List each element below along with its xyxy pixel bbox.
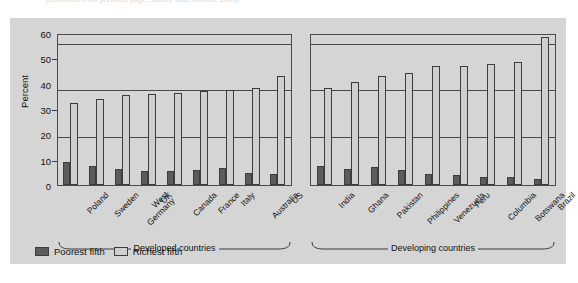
- bar-richest-fifth: [252, 88, 260, 185]
- chart-figure: Percent 60 50 40 30 20 10 0 PolandSweden…: [10, 18, 566, 264]
- bar-group: [450, 35, 470, 185]
- bar-group: [315, 35, 335, 185]
- bar-poorest-fifth: [115, 169, 122, 185]
- bar-group: [369, 35, 389, 185]
- bar-richest-fifth: [70, 103, 78, 185]
- bar-richest-fifth: [148, 94, 156, 185]
- bar-poorest-fifth: [63, 162, 70, 185]
- bar-richest-fifth: [277, 76, 285, 185]
- x-axis-label: Italy: [238, 190, 256, 208]
- chart-legend: Poorest fifth Richest fifth: [35, 246, 182, 257]
- bar-richest-fifth: [96, 99, 104, 185]
- x-axis-label: Sweden: [112, 190, 141, 219]
- x-axis-label: Canada: [190, 190, 218, 218]
- bar-poorest-fifth: [245, 173, 252, 185]
- bar-richest-fifth: [174, 93, 182, 185]
- legend-swatch-richest: [114, 247, 128, 256]
- bar-group: [216, 35, 236, 185]
- bar-poorest-fifth: [371, 167, 378, 185]
- plot-area: [57, 34, 556, 186]
- panel-developing-countries: [310, 34, 556, 186]
- panel-developed-countries: [57, 34, 292, 186]
- x-axis-label: India: [336, 190, 356, 210]
- y-tick-label-20: 20: [25, 130, 51, 141]
- legend-label-richest: Richest fifth: [133, 246, 183, 257]
- y-axis: Percent 60 50 40 30 20 10 0: [10, 34, 57, 186]
- x-axis-label: Poland: [85, 190, 111, 216]
- bar-group: [477, 35, 497, 185]
- bar-group: [190, 35, 210, 185]
- y-tick-label-50: 50: [25, 54, 51, 65]
- bar-group: [139, 35, 159, 185]
- bar-poorest-fifth: [167, 171, 174, 185]
- bar-group: [423, 35, 443, 185]
- bar-group: [342, 35, 362, 185]
- bar-group: [396, 35, 416, 185]
- x-axis-label: Pakistan: [395, 190, 425, 220]
- x-axis-label: France: [215, 190, 241, 216]
- bar-poorest-fifth: [344, 169, 351, 185]
- legend-label-poorest: Poorest fifth: [54, 246, 105, 257]
- bar-group: [61, 35, 81, 185]
- bar-richest-fifth: [432, 66, 440, 185]
- bar-richest-fifth: [378, 76, 386, 185]
- y-tick-label-60: 60: [25, 29, 51, 40]
- bar-poorest-fifth: [270, 174, 277, 185]
- bar-group: [164, 35, 184, 185]
- bar-group: [113, 35, 133, 185]
- bar-poorest-fifth: [219, 168, 226, 185]
- bar-richest-fifth: [226, 90, 234, 185]
- bar-poorest-fifth: [193, 170, 200, 185]
- bar-poorest-fifth: [425, 174, 432, 185]
- bar-richest-fifth: [122, 95, 130, 185]
- cut-off-caption: (continued from previous page; source da…: [46, 0, 546, 7]
- x-axis-label: Ghana: [365, 190, 390, 215]
- bar-richest-fifth: [514, 62, 522, 185]
- bar-richest-fifth: [351, 82, 359, 185]
- y-tick-label-10: 10: [25, 155, 51, 166]
- bar-poorest-fifth: [534, 179, 541, 185]
- bar-richest-fifth: [487, 64, 495, 185]
- bar-richest-fifth: [200, 91, 208, 185]
- bar-group: [504, 35, 524, 185]
- y-tick-label-0: 0: [25, 181, 51, 192]
- bar-richest-fifth: [460, 66, 468, 185]
- bar-poorest-fifth: [507, 177, 514, 185]
- bar-richest-fifth: [405, 73, 413, 185]
- legend-swatch-poorest: [35, 247, 49, 256]
- bar-richest-fifth: [324, 88, 332, 185]
- bar-group: [87, 35, 107, 185]
- x-axis-label: Columbia: [505, 190, 537, 222]
- bar-poorest-fifth: [453, 175, 460, 185]
- y-tick-label-30: 30: [25, 105, 51, 116]
- bar-poorest-fifth: [317, 166, 324, 185]
- bar-group: [268, 35, 288, 185]
- bar-poorest-fifth: [89, 166, 96, 185]
- bar-poorest-fifth: [480, 177, 487, 185]
- bar-group: [242, 35, 262, 185]
- x-axis-labels: PolandSwedenWestGermanyUKCanadaFranceIta…: [57, 188, 556, 244]
- bar-group: [531, 35, 551, 185]
- bar-poorest-fifth: [398, 170, 405, 185]
- legend-item-richest: Richest fifth: [114, 246, 183, 257]
- bar-poorest-fifth: [141, 171, 148, 185]
- y-tick-label-40: 40: [25, 79, 51, 90]
- bar-richest-fifth: [541, 37, 549, 185]
- legend-item-poorest: Poorest fifth: [35, 246, 105, 257]
- group-caption: Developing countries: [388, 243, 478, 253]
